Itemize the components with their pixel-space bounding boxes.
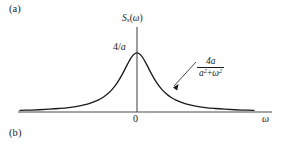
annotation-arrowhead-icon: [173, 84, 179, 90]
curve-formula-annotation: 4a a2+ω2: [197, 57, 224, 79]
formula-denominator: a2+ω2: [197, 69, 224, 79]
x-axis-title: ω: [262, 114, 269, 124]
formula-numerator: 4a: [197, 57, 224, 67]
y-axis-title-arg: ω: [133, 13, 140, 23]
peak-value-symbol: a: [121, 41, 126, 52]
formula-denominator-exp2: 2: [219, 67, 222, 74]
annotation-leader-line: [174, 62, 196, 86]
figure-container: (a) (b) Sx(ω) 4/a 0 ω 4a a2+ω2: [0, 0, 284, 145]
y-axis-peak-value-label: 4/a: [113, 42, 126, 52]
peak-value-numeral: 4/: [113, 41, 121, 52]
x-axis-origin-label: 0: [133, 114, 138, 124]
y-axis-title-paren-close: ): [140, 13, 143, 23]
y-axis-title: Sx(ω): [122, 14, 143, 24]
